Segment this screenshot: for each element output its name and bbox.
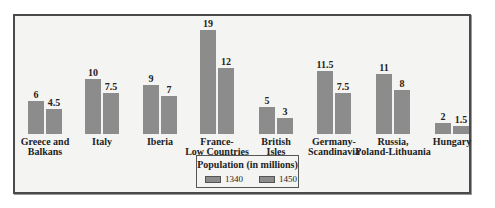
data-label: 7.5	[99, 82, 123, 92]
legend: Population (in millions) 1340 1450	[196, 155, 299, 188]
bar-1450	[218, 68, 234, 134]
bar-1450	[453, 126, 469, 134]
data-label: 3	[273, 107, 297, 117]
legend-label-1450: 1450	[279, 174, 297, 184]
data-label: 9	[139, 74, 163, 84]
bar-1450	[46, 109, 62, 134]
data-label: 7.5	[331, 82, 355, 92]
legend-swatch-1450	[259, 176, 275, 183]
legend-title: Population (in millions)	[197, 159, 298, 170]
data-label: 4.5	[42, 98, 66, 108]
data-label: 12	[214, 57, 238, 67]
bar-1340	[317, 71, 333, 134]
category-label: Hungary	[412, 137, 492, 147]
data-label: 11.5	[313, 60, 337, 70]
data-label: 19	[196, 19, 220, 29]
bar-1340	[200, 30, 216, 134]
data-label: 5	[255, 96, 279, 106]
data-label: 1.5	[449, 115, 473, 125]
bar-1450	[161, 96, 177, 134]
data-label: 10	[81, 68, 105, 78]
legend-swatch-1340	[205, 176, 221, 183]
data-label: 7	[157, 85, 181, 95]
bar-1450	[103, 93, 119, 134]
data-label: 11	[372, 63, 396, 73]
bar-1450	[335, 93, 351, 134]
bar-1450	[277, 118, 293, 134]
data-label: 8	[390, 79, 414, 89]
bar-1450	[394, 90, 410, 134]
legend-label-1340: 1340	[225, 174, 243, 184]
